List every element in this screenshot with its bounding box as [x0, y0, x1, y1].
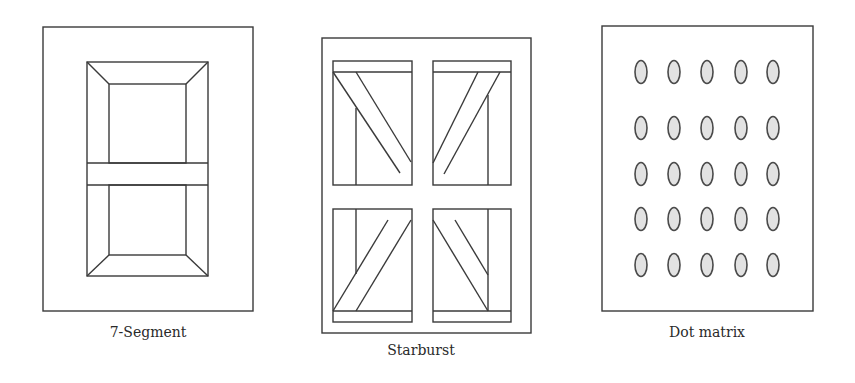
matrix-dot: [701, 163, 713, 186]
matrix-dot: [668, 163, 680, 186]
matrix-dot: [767, 61, 779, 84]
seven-segment-frame: [87, 62, 208, 276]
starburst-diagonal: [356, 220, 411, 311]
matrix-dot: [701, 117, 713, 140]
matrix-dot: [635, 208, 647, 231]
seven-segment-display: [43, 27, 253, 311]
matrix-dot: [767, 254, 779, 277]
matrix-dot: [735, 61, 747, 84]
matrix-dot: [668, 61, 680, 84]
matrix-dot: [767, 117, 779, 140]
matrix-dot: [701, 61, 713, 84]
starburst-display: [322, 38, 531, 333]
matrix-dot: [735, 163, 747, 186]
matrix-dot: [635, 163, 647, 186]
matrix-dot: [767, 208, 779, 231]
matrix-dot: [735, 117, 747, 140]
dot-matrix-label: Dot matrix: [669, 324, 745, 340]
matrix-dot: [767, 163, 779, 186]
segment-lower-window: [109, 185, 186, 255]
matrix-dot: [735, 254, 747, 277]
starburst-diagonal: [433, 72, 478, 163]
segment-bevel: [186, 255, 208, 276]
starburst-diagonal: [333, 220, 388, 311]
starburst-cell-lower-right: [433, 209, 511, 322]
segment-bevel: [186, 62, 208, 84]
segment-bevel: [87, 255, 109, 276]
seven-segment-label: 7-Segment: [110, 324, 187, 340]
matrix-dot: [701, 254, 713, 277]
starburst-cell-lower-left: [333, 209, 412, 322]
matrix-dot: [635, 61, 647, 84]
starburst-cell-upper-left: [333, 61, 412, 185]
starburst-label: Starburst: [387, 342, 455, 358]
matrix-dot: [635, 117, 647, 140]
starburst-diagonal: [333, 72, 400, 173]
starburst-diagonal: [433, 220, 488, 311]
matrix-dot: [635, 254, 647, 277]
matrix-dot: [668, 254, 680, 277]
starburst-diagonal: [455, 220, 488, 275]
matrix-dot: [668, 208, 680, 231]
dot-matrix-display: [602, 26, 813, 311]
seven-segment-outer-frame: [43, 27, 253, 311]
segment-upper-window: [109, 84, 186, 163]
matrix-dot: [668, 117, 680, 140]
dot-grid: [635, 61, 779, 277]
matrix-dot: [701, 208, 713, 231]
matrix-dot: [735, 208, 747, 231]
segment-bevel: [87, 62, 109, 84]
